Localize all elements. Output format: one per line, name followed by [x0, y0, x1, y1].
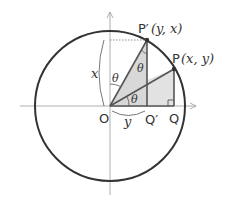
theta-label-2: θ [137, 62, 144, 75]
unit-circle-diagram: P′ (y, x) P (x, y) O Q′ Q x y θ θ θ [0, 0, 228, 209]
label-x-length: x [91, 66, 99, 81]
label-O: O [99, 111, 109, 126]
coords-P-prime: (y, x) [151, 21, 182, 36]
coords-P: (x, y) [181, 51, 214, 66]
label-P-prime: P′ [138, 21, 149, 36]
theta-label-1: θ [112, 72, 119, 85]
label-P: P [172, 51, 180, 66]
label-Q-prime: Q′ [145, 112, 158, 127]
label-Q: Q [169, 111, 179, 126]
brace-x [99, 40, 104, 106]
theta-label-3: θ [131, 93, 138, 106]
point-P-prime [145, 38, 149, 42]
label-y-length: y [123, 114, 132, 129]
point-P [172, 67, 176, 71]
